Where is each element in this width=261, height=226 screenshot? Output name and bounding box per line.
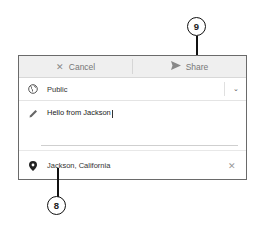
callout-number: 9 — [194, 21, 199, 32]
dropdown-divider — [224, 82, 225, 96]
map-pin-icon — [25, 161, 41, 171]
pencil-icon — [25, 109, 41, 118]
callout-number: 8 — [54, 200, 59, 211]
location-row[interactable]: Jackson, California ✕ — [19, 150, 246, 180]
message-underline — [41, 145, 238, 146]
cancel-label: Cancel — [69, 62, 95, 72]
callout-8: 8 — [47, 196, 66, 215]
callout-9: 9 — [187, 17, 206, 36]
visibility-selector[interactable]: Public ⌄ — [19, 78, 246, 101]
share-button[interactable]: Share — [133, 56, 246, 77]
globe-icon — [25, 84, 41, 94]
message-field[interactable]: Hello from Jackson — [19, 102, 246, 124]
send-icon — [171, 61, 181, 72]
callout-8-line — [57, 168, 59, 197]
share-panel: ✕ Cancel Share Public ⌄ Hello from Jacks… — [18, 55, 247, 180]
action-bar: ✕ Cancel Share — [19, 56, 246, 78]
message-text: Hello from Jackson — [47, 108, 111, 117]
clear-location-icon[interactable]: ✕ — [228, 161, 236, 171]
cancel-button[interactable]: ✕ Cancel — [19, 56, 132, 77]
visibility-label: Public — [47, 85, 67, 94]
text-cursor — [112, 110, 113, 118]
close-icon: ✕ — [56, 62, 64, 72]
share-label: Share — [186, 62, 209, 72]
chevron-down-icon[interactable]: ⌄ — [233, 85, 239, 93]
